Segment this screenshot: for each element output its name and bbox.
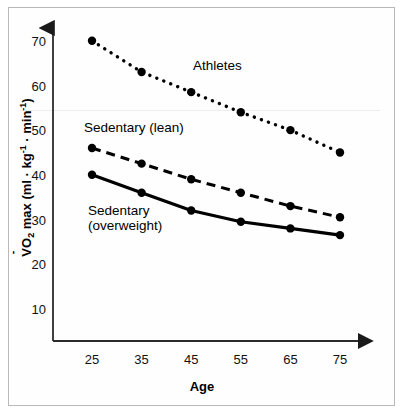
data-point xyxy=(336,231,344,239)
data-point xyxy=(237,188,245,196)
data-point xyxy=(237,108,245,116)
plot-area xyxy=(0,0,404,415)
data-point xyxy=(286,202,294,210)
data-point xyxy=(88,171,96,179)
data-point xyxy=(187,175,195,183)
series-line xyxy=(92,175,340,235)
data-point xyxy=(237,218,245,226)
series-line xyxy=(92,41,340,153)
data-point xyxy=(336,148,344,156)
data-point xyxy=(286,126,294,134)
data-point xyxy=(137,159,145,167)
data-point xyxy=(187,206,195,214)
data-point xyxy=(88,144,96,152)
data-point xyxy=(137,68,145,76)
data-series xyxy=(88,37,344,240)
series-sedentary-overweight xyxy=(88,171,344,240)
data-point xyxy=(137,188,145,196)
data-point xyxy=(88,37,96,45)
series-sedentary-lean xyxy=(88,144,344,222)
series-line xyxy=(92,148,340,217)
data-point xyxy=(286,224,294,232)
series-athletes xyxy=(88,37,344,157)
chart-figure: VO2 max (ml · kg-1 · min-1) Age 70605040… xyxy=(0,0,404,415)
data-point xyxy=(336,213,344,221)
data-point xyxy=(187,88,195,96)
